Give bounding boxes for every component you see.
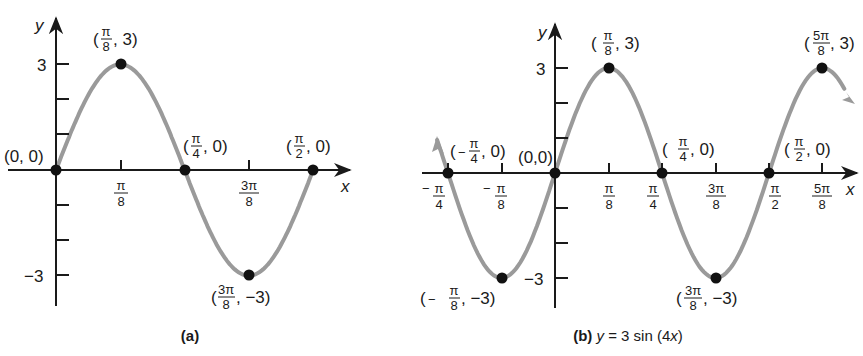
svg-text:8: 8	[450, 298, 457, 313]
svg-text:8: 8	[102, 39, 109, 54]
svg-text:(: (	[450, 142, 456, 161]
chart-a: y x 3 −3 π 8 3π 8 (0, 0) ( π 8 , 3) ( π	[4, 16, 350, 344]
y-tick-label-3-b: 3	[536, 60, 545, 79]
x-tick-label-3pi8-a: 3π 8	[239, 178, 259, 209]
caption-a: (a)	[181, 327, 199, 344]
svg-text:, 3): , 3)	[113, 30, 138, 49]
svg-text:, −3): , −3)	[461, 289, 496, 308]
point-origin-a	[51, 165, 62, 176]
svg-text:, 0): , 0)	[306, 137, 331, 156]
svg-text:4: 4	[649, 197, 656, 212]
point-label-max-a: ( π 8 , 3)	[93, 24, 138, 54]
svg-text:π: π	[771, 181, 780, 196]
point-label-max-5pi8-b: ( 5π 8 , 3)	[804, 28, 855, 58]
point-max-a	[116, 59, 127, 70]
svg-text:π: π	[435, 181, 444, 196]
svg-text:(: (	[183, 137, 189, 156]
svg-text:8: 8	[605, 197, 612, 212]
svg-text:π: π	[295, 131, 304, 146]
x-tick-label-pi8-a: π 8	[114, 178, 128, 209]
point-zero-pi4-a	[180, 165, 191, 176]
svg-text:, 3): , 3)	[830, 34, 855, 53]
svg-text:π: π	[497, 181, 506, 196]
point-label-min-a: ( 3π 8 , −3)	[211, 282, 271, 312]
svg-text:8: 8	[817, 43, 824, 58]
svg-text:, 3): , 3)	[615, 34, 640, 53]
svg-text:π: π	[450, 283, 459, 298]
svg-text:(: (	[93, 30, 99, 49]
svg-text:(: (	[676, 289, 682, 308]
x-axis-label-a: x	[340, 177, 350, 196]
point-zero-neg-pi4-b	[443, 168, 454, 179]
svg-text:4: 4	[192, 146, 199, 161]
svg-text:5π: 5π	[814, 181, 830, 196]
y-tick-label-neg3-b: −3	[524, 270, 543, 289]
x-tick-label-pi2-b: π 2	[769, 181, 781, 212]
point-zero-pi2-b	[764, 168, 775, 179]
svg-text:8: 8	[245, 194, 252, 209]
x-tick-label-pi8-b: π 8	[603, 181, 615, 212]
svg-text:3π: 3π	[218, 282, 234, 297]
svg-text:π: π	[679, 134, 688, 149]
svg-text:8: 8	[818, 197, 825, 212]
svg-text:π: π	[192, 131, 201, 146]
svg-text:(: (	[420, 289, 426, 308]
y-tick-label-neg3-a: −3	[24, 267, 43, 286]
svg-text:3π: 3π	[708, 181, 724, 196]
svg-text:−: −	[428, 292, 436, 307]
svg-text:(: (	[211, 288, 217, 307]
svg-text:, 0): , 0)	[806, 140, 831, 159]
svg-text:2: 2	[295, 146, 302, 161]
svg-text:(: (	[784, 140, 790, 159]
curve-arrow-right-b	[842, 92, 855, 104]
x-axis-label-b: x	[845, 180, 855, 199]
svg-text:5π: 5π	[813, 28, 829, 43]
svg-text:π: π	[604, 28, 613, 43]
svg-text:π: π	[470, 136, 479, 151]
svg-text:3π: 3π	[241, 178, 257, 193]
x-tick-label-neg-pi8-b: − π 8	[483, 181, 507, 212]
svg-text:(: (	[662, 140, 668, 159]
point-label-origin-b: (0,0)	[518, 148, 553, 167]
caption-b: (b) y = 3 sin (4x)	[573, 327, 683, 344]
y-axis-label-a: y	[34, 16, 45, 35]
point-label-min-3pi8-b: ( 3π 8 , −3)	[676, 283, 738, 313]
x-tick-label-pi4-b: π 4	[647, 181, 659, 212]
point-max-5pi8-b	[817, 63, 828, 74]
curve-arrow-left-b	[432, 136, 444, 154]
svg-text:3π: 3π	[685, 283, 701, 298]
point-min-a	[244, 270, 255, 281]
svg-text:8: 8	[604, 43, 611, 58]
point-label-min-neg-pi8-b: ( − π 8 , −3)	[420, 283, 496, 313]
point-zero-pi2-a	[308, 165, 319, 176]
svg-text:−: −	[483, 181, 491, 196]
figure-canvas: y x 3 −3 π 8 3π 8 (0, 0) ( π 8 , 3) ( π	[0, 0, 863, 356]
svg-text:π: π	[795, 134, 804, 149]
svg-text:π: π	[102, 24, 111, 39]
chart-b: y x 3 −3 − π 4 − π 8 π 8 π 4 3π	[420, 23, 857, 344]
svg-text:4: 4	[435, 197, 442, 212]
point-zero-pi4-b	[657, 168, 668, 179]
point-origin-b	[550, 168, 561, 179]
x-tick-label-5pi8-b: 5π 8	[812, 181, 832, 212]
point-max-pi8-b	[604, 63, 615, 74]
svg-text:8: 8	[497, 197, 504, 212]
svg-text:8: 8	[712, 197, 719, 212]
svg-text:4: 4	[470, 151, 477, 166]
point-label-pi2-a: ( π 2 , 0)	[286, 131, 331, 161]
svg-text:8: 8	[117, 194, 124, 209]
point-label-max-pi8-b: ( π 8 , 3)	[591, 28, 640, 58]
point-min-3pi8-b	[711, 273, 722, 284]
svg-text:8: 8	[222, 297, 229, 312]
svg-text:, −3): , −3)	[236, 288, 271, 307]
point-label-neg-pi4-b: ( − π 4 , 0)	[450, 136, 506, 166]
point-label-pi4-b: ( π 4 , 0)	[662, 134, 715, 164]
svg-text:π: π	[605, 181, 614, 196]
svg-text:π: π	[649, 181, 658, 196]
svg-text:, 0): , 0)	[690, 140, 715, 159]
svg-text:−: −	[458, 145, 466, 160]
point-label-pi4-a: ( π 4 , 0)	[183, 131, 228, 161]
point-min-neg-pi8-b	[497, 273, 508, 284]
x-tick-label-neg-pi4-b: − π 4	[422, 181, 445, 212]
svg-text:(: (	[591, 34, 597, 53]
